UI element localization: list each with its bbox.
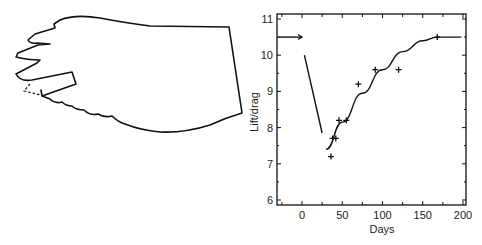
y-tick-label: 6 bbox=[267, 194, 273, 206]
y-tick-label: 9 bbox=[267, 85, 273, 97]
y-tick-label: 8 bbox=[267, 122, 273, 134]
wing-outline bbox=[16, 16, 242, 132]
data-series bbox=[278, 34, 462, 159]
drop-after-damage-line bbox=[304, 55, 322, 133]
axes: 05010015020067891011 bbox=[261, 13, 472, 221]
lift-drag-chart: 05010015020067891011 Days Lift/drag bbox=[240, 0, 482, 245]
x-tick-label: 0 bbox=[299, 209, 305, 221]
x-tick-label: 100 bbox=[373, 209, 391, 221]
y-axis-title: Lift/drag bbox=[248, 92, 260, 132]
x-tick-label: 50 bbox=[336, 209, 348, 221]
y-tick-label: 11 bbox=[262, 13, 273, 25]
x-tick-label: 200 bbox=[454, 209, 472, 221]
y-tick-label: 10 bbox=[261, 49, 273, 61]
recovery-fit-line bbox=[326, 37, 461, 149]
wing-illustration bbox=[0, 0, 250, 150]
data-point-marker bbox=[355, 81, 361, 87]
x-tick-label: 150 bbox=[414, 209, 432, 221]
y-tick-label: 7 bbox=[267, 158, 273, 170]
data-point-marker bbox=[328, 154, 334, 160]
plot-frame bbox=[277, 14, 466, 205]
data-point-marker bbox=[396, 67, 402, 73]
missing-feather-dashed-line bbox=[24, 84, 41, 95]
x-axis-title: Days bbox=[369, 223, 395, 235]
